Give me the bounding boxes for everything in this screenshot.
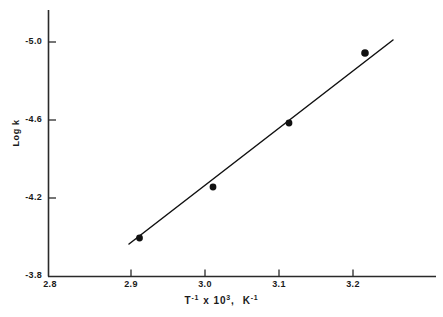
x-tick-label-2.9: 2.9 <box>119 279 143 289</box>
x-axis-title-times: x <box>203 295 209 306</box>
fit-line-group <box>129 40 393 244</box>
x-axis-title-factor: 10 <box>214 295 227 306</box>
x-axis-title: T-1x103,K-1 <box>0 295 443 306</box>
y-tick-label-5.0: -5.0 <box>8 36 42 46</box>
axes-group <box>48 10 436 277</box>
x-axis-title-variable-exponent: -1 <box>191 294 199 301</box>
x-axis-ticks <box>131 270 353 277</box>
y-tick-label-3.8: -3.8 <box>8 270 42 280</box>
x-tick-label-3.0: 3.0 <box>193 279 217 289</box>
x-tick-label-2.8: 2.8 <box>38 279 62 289</box>
x-axis-title-unit: K <box>243 295 251 306</box>
y-axis-ticks <box>49 42 57 198</box>
x-axis-title-unit-exponent: -1 <box>251 294 259 301</box>
data-points-group <box>136 49 369 241</box>
x-tick-label-3.1: 3.1 <box>267 279 291 289</box>
arrhenius-plot-figure: -5.0 -4.6 -4.2 -3.8 2.8 2.9 3.0 3.1 3.2 … <box>0 0 443 317</box>
data-point <box>361 49 369 57</box>
data-point <box>286 120 293 127</box>
x-axis-title-comma: , <box>231 295 235 306</box>
plot-canvas <box>0 0 443 317</box>
data-point <box>136 235 143 242</box>
data-point <box>210 184 217 191</box>
x-tick-label-3.2: 3.2 <box>341 279 365 289</box>
fit-line <box>129 40 393 244</box>
y-tick-label-4.2: -4.2 <box>8 192 42 202</box>
y-axis-title: Log k <box>11 103 21 163</box>
